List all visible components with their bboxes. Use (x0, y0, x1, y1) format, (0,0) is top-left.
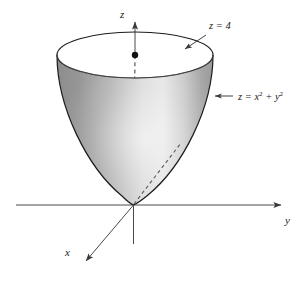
z-axis-label: z (119, 8, 125, 20)
x-axis-line (86, 205, 134, 261)
surface-annotation: z = x2 + y2 (215, 90, 284, 102)
x-axis: x (64, 205, 134, 261)
y-axis: y (16, 205, 290, 226)
cap-center-point (132, 52, 138, 58)
plane-annotation-leader (185, 35, 206, 49)
x-axis-label: x (64, 246, 70, 258)
figure-canvas: y z (0, 0, 303, 282)
surface-eq-part2: + y (263, 91, 280, 102)
paraboloid-figure: y z (0, 0, 303, 282)
surface-eq-part1: z = x (237, 91, 259, 102)
surface-eq-exp2: 2 (280, 90, 284, 98)
plane-annotation-label: z = 4 (208, 20, 231, 31)
y-axis-label: y (284, 214, 290, 226)
surface-annotation-label: z = x2 + y2 (237, 90, 284, 102)
plane-annotation: z = 4 (185, 20, 231, 49)
